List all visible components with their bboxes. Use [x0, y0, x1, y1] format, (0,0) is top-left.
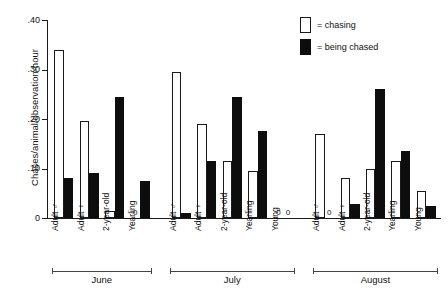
zero-value-label: 0: [324, 209, 334, 217]
x-axis-category-label: Yearling: [388, 201, 397, 231]
x-axis-category-label: Yearling: [128, 201, 137, 231]
x-axis-category-label: Adult ♀: [338, 203, 347, 231]
bar-being-chased: [401, 151, 411, 218]
y-axis-tick-label: .40: [0, 16, 40, 25]
legend-item: = being chased: [300, 38, 378, 55]
bar-being-chased: [375, 89, 385, 218]
plot-area: 0000: [47, 20, 441, 218]
y-axis-tick-label: 0: [0, 214, 40, 223]
x-axis-category-label: Young: [414, 207, 423, 231]
x-axis-category-label: Adult ♂: [169, 203, 178, 231]
bar-being-chased: [350, 204, 360, 218]
legend-item: = chasing: [300, 16, 378, 33]
bar-being-chased: [207, 161, 217, 218]
legend-swatch-filled: [300, 39, 311, 55]
x-axis-category-label: 2-year-old: [363, 193, 372, 231]
legend-swatch-open: [300, 17, 311, 33]
x-axis-category-label: Adult ♂: [312, 203, 321, 231]
bar-being-chased: [89, 173, 99, 218]
bar-being-chased: [115, 97, 125, 218]
y-axis-tick-label: .30: [0, 65, 40, 74]
chart-legend: = chasing= being chased: [300, 16, 378, 60]
zero-value-label: 0: [283, 209, 293, 217]
bar-chasing: [54, 50, 64, 218]
x-axis-category-label: Adult ♀: [77, 203, 86, 231]
bar-being-chased: [140, 181, 150, 218]
y-axis-tick-label: .10: [0, 164, 40, 173]
bar-being-chased: [258, 131, 268, 218]
x-axis-category-label: 2-year-old: [102, 193, 111, 231]
x-axis-category-label: 2-year-old: [220, 193, 229, 231]
y-axis-tick-label: .20: [0, 115, 40, 124]
y-axis-tick: [42, 218, 48, 219]
x-axis-category-label: Young: [271, 207, 280, 231]
x-axis-category-label: Adult ♂: [51, 203, 60, 231]
bar-chasing: [172, 72, 182, 218]
x-axis-category-label: Yearling: [245, 201, 254, 231]
month-label: June: [52, 275, 152, 285]
month-label: July: [170, 275, 295, 285]
bar-being-chased: [181, 213, 191, 218]
x-axis-category-label: Adult ♀: [194, 203, 203, 231]
chart-figure: Chases/animal/observation-hour 0.10.20.3…: [0, 0, 448, 294]
bar-being-chased: [64, 178, 74, 218]
bar-being-chased: [232, 97, 242, 218]
legend-label: = being chased: [317, 42, 378, 52]
bar-being-chased: [426, 206, 436, 218]
month-label: August: [313, 275, 438, 285]
legend-label: = chasing: [317, 20, 356, 30]
